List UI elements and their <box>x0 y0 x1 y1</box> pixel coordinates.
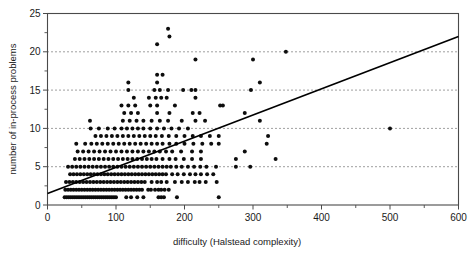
data-point <box>115 134 119 138</box>
data-point <box>155 80 159 84</box>
data-point <box>179 149 183 153</box>
data-point <box>119 172 123 176</box>
data-point <box>165 96 169 100</box>
data-point <box>193 172 197 176</box>
data-point <box>126 180 130 184</box>
scatter-plot-figure: 0510152025 0100200300400500600 difficult… <box>0 0 475 261</box>
data-point <box>165 165 169 169</box>
data-point <box>193 180 197 184</box>
data-point <box>193 88 197 92</box>
data-point <box>117 142 121 146</box>
data-point <box>243 111 247 115</box>
data-point <box>123 172 127 176</box>
data-point <box>132 134 136 138</box>
data-point <box>189 88 193 92</box>
data-point <box>126 80 130 84</box>
data-point <box>258 119 262 123</box>
y-tick-label-25: 25 <box>29 8 41 19</box>
data-point <box>128 119 132 123</box>
data-point <box>217 134 221 138</box>
data-point <box>106 126 110 130</box>
data-point <box>150 172 154 176</box>
data-point <box>155 103 159 107</box>
data-point <box>157 172 161 176</box>
data-point <box>129 195 133 199</box>
data-point <box>154 172 158 176</box>
data-point <box>188 172 192 176</box>
data-point <box>199 149 203 153</box>
data-point <box>103 165 107 169</box>
data-point <box>180 180 184 184</box>
data-point <box>106 142 110 146</box>
data-point <box>139 142 143 146</box>
data-point <box>143 134 147 138</box>
data-point <box>126 134 130 138</box>
data-point <box>181 88 185 92</box>
data-point <box>133 172 137 176</box>
data-point <box>107 165 111 169</box>
data-point <box>113 126 117 130</box>
x-tick-label-100: 100 <box>108 212 125 223</box>
data-point <box>148 126 152 130</box>
data-point <box>133 103 137 107</box>
data-point <box>82 157 86 161</box>
data-point <box>155 126 159 130</box>
data-point <box>141 149 145 153</box>
data-point <box>186 180 190 184</box>
data-point <box>199 172 203 176</box>
data-point <box>161 157 165 161</box>
data-point <box>126 103 130 107</box>
chart-background <box>0 0 475 261</box>
data-point <box>140 188 144 192</box>
data-point <box>98 180 102 184</box>
data-point <box>169 126 173 130</box>
data-point <box>155 180 159 184</box>
y-axis-label: number of in-process problems <box>7 43 18 174</box>
data-point <box>126 172 130 176</box>
data-point <box>160 134 164 138</box>
data-point <box>183 134 187 138</box>
data-point <box>89 126 93 130</box>
data-point <box>144 165 148 169</box>
data-point <box>74 142 78 146</box>
data-point <box>234 157 238 161</box>
y-tick-label-20: 20 <box>29 46 41 57</box>
data-point <box>214 165 218 169</box>
data-point <box>78 165 82 169</box>
data-point <box>166 88 170 92</box>
data-point <box>119 103 123 107</box>
data-point <box>174 134 178 138</box>
data-point <box>114 149 118 153</box>
data-point <box>182 157 186 161</box>
data-point <box>173 180 177 184</box>
data-point <box>150 119 154 123</box>
data-point <box>167 111 171 115</box>
data-point <box>161 172 165 176</box>
data-point <box>150 180 154 184</box>
data-point <box>205 172 209 176</box>
data-point <box>116 172 120 176</box>
data-point <box>119 149 123 153</box>
data-point <box>166 27 170 31</box>
data-point <box>73 157 77 161</box>
x-tick-label-500: 500 <box>382 212 399 223</box>
data-point <box>119 126 123 130</box>
data-point <box>114 195 118 199</box>
data-point <box>148 103 152 107</box>
data-point <box>204 165 208 169</box>
data-point <box>78 157 82 161</box>
data-point <box>121 134 125 138</box>
data-point <box>161 142 165 146</box>
data-point <box>75 172 79 176</box>
data-point <box>88 119 92 123</box>
data-point <box>154 96 158 100</box>
data-point <box>121 157 125 161</box>
data-point <box>128 142 132 146</box>
data-point <box>113 172 117 176</box>
data-point <box>92 149 96 153</box>
data-point <box>154 157 158 161</box>
data-point <box>221 103 225 107</box>
data-point <box>137 172 141 176</box>
data-point <box>164 149 168 153</box>
data-point <box>85 180 89 184</box>
